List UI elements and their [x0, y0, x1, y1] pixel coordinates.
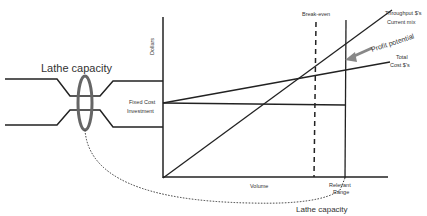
fixed-cost-line	[163, 103, 345, 105]
cost-label: Cost $'s	[390, 62, 410, 68]
x-axis-label: Volume	[250, 183, 268, 189]
lathe-capacity-dotted-link	[85, 130, 345, 203]
break-even-label: Break-even	[302, 11, 330, 17]
profit-potential-arrow	[345, 48, 372, 62]
breakeven-diagram: Lathe capacity Dollars Fixed Cost Invest…	[0, 0, 427, 216]
throughput-label: Throughput $'s	[385, 10, 422, 16]
y-axis-label: Dollars	[149, 38, 155, 55]
fixed-cost-label: Fixed Cost	[129, 99, 156, 105]
total-cost-line	[163, 62, 390, 103]
profit-potential-label: Profit potential	[370, 32, 415, 54]
investment-label: Investment	[127, 108, 154, 114]
total-cost-label: Total	[396, 54, 408, 60]
lathe-capacity-ellipse	[78, 76, 92, 130]
lathe-capacity-label-top: Lathe capacity	[41, 62, 112, 74]
lathe-capacity-label-bottom: Lathe capacity	[296, 205, 348, 214]
range-label: Range	[333, 189, 349, 195]
relevant-label: Relevant	[329, 182, 351, 188]
current-mix-label: Current mix	[387, 19, 416, 25]
throughput-line	[163, 10, 392, 178]
break-even-line	[314, 22, 316, 177]
